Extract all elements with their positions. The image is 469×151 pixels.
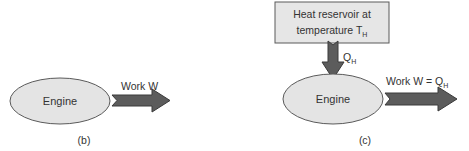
panel-caption: (b) [78, 134, 91, 146]
panel-b: Engine Work W (b) [10, 78, 170, 146]
heat-label: QH [343, 51, 356, 65]
reservoir-label-line2: temperature TH [297, 24, 368, 38]
work-label: Work W = QH [386, 75, 448, 89]
heat-flow-arrow-icon [322, 41, 344, 79]
engine-label: Engine [316, 93, 350, 105]
work-arrow-icon [385, 87, 457, 111]
work-arrow-icon [112, 89, 170, 112]
panel-c: Heat reservoir at temperature TH QH Engi… [275, 2, 457, 146]
work-label: Work W [121, 80, 158, 92]
panel-caption: (c) [359, 134, 371, 146]
heat-engine-diagram: Engine Work W (b) Heat reservoir at temp… [0, 0, 469, 151]
engine-label: Engine [43, 95, 77, 107]
reservoir-label-line1: Heat reservoir at [293, 8, 371, 20]
